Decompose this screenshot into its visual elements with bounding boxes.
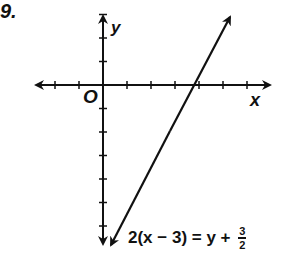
- fraction-denominator: 2: [239, 240, 245, 250]
- problem-number: 9.: [0, 0, 17, 23]
- graph-line: [170, 17, 230, 131]
- fraction: 3 2: [238, 226, 246, 250]
- fraction-numerator: 3: [239, 226, 245, 236]
- x-axis-label: x: [250, 90, 260, 111]
- equation-label: 2(x − 3) = y + 3 2: [128, 226, 246, 250]
- origin-label: O: [83, 86, 98, 108]
- graph-figure: 9. y x O 2(x − 3) = y + 3 2: [0, 0, 288, 266]
- y-axis-label: y: [111, 18, 120, 38]
- equation-text: 2(x − 3) = y +: [128, 228, 235, 248]
